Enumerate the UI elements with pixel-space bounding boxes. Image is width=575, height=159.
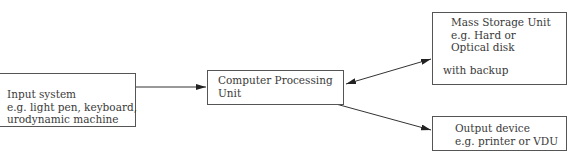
- storage-title: Mass Storage Unit: [451, 16, 566, 29]
- input-system-box: Input system e.g. light pen, keyboard, u…: [0, 73, 136, 127]
- output-title: Output device: [455, 122, 566, 135]
- arrow-cpu-to-output: [336, 104, 431, 130]
- cpu-title: Computer Processing: [218, 74, 343, 87]
- spacer: [451, 54, 566, 64]
- storage-example: e.g. Hard or: [451, 29, 566, 42]
- input-example-cont: urodynamic machine: [7, 113, 135, 126]
- arrow-cpu-storage-bidirectional: [346, 59, 431, 84]
- output-device-box: Output device e.g. printer or VDU: [432, 116, 567, 151]
- output-example: e.g. printer or VDU: [455, 135, 566, 148]
- mass-storage-unit-box: Mass Storage Unit e.g. Hard or Optical d…: [432, 12, 567, 85]
- storage-note: with backup: [443, 64, 566, 77]
- input-example: e.g. light pen, keyboard,: [7, 101, 135, 114]
- computer-processing-unit-box: Computer Processing Unit: [207, 70, 344, 105]
- storage-example-cont: Optical disk: [451, 41, 566, 54]
- cpu-title-cont: Unit: [218, 87, 343, 100]
- input-title: Input system: [7, 88, 135, 101]
